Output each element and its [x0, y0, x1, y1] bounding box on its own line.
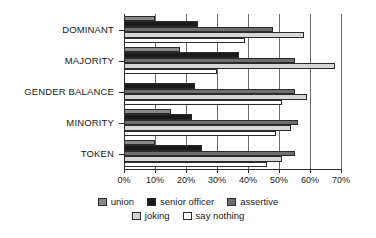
- bar-saynothing-2: [124, 100, 282, 105]
- x-tick-label-40: 40%: [239, 175, 257, 185]
- x-tick-label-30: 30%: [208, 175, 226, 185]
- x-tick-60: [310, 169, 311, 173]
- category-label-majority: MAJORITY: [65, 56, 114, 66]
- x-tick-label-0: 0%: [117, 175, 130, 185]
- x-tick-20: [186, 169, 187, 173]
- legend-item-joking[interactable]: joking: [132, 211, 170, 221]
- legend-item-assertive[interactable]: assertive: [227, 197, 278, 207]
- x-tick-label-50: 50%: [270, 175, 288, 185]
- chart-legend: unionsenior officerassertive jokingsay n…: [0, 195, 376, 223]
- bar-group: [124, 107, 341, 138]
- legend-swatch-icon: [98, 198, 107, 206]
- x-tick-label-70: 70%: [332, 175, 350, 185]
- legend-item-senior-officer[interactable]: senior officer: [147, 197, 214, 207]
- legend-label: senior officer: [160, 197, 214, 207]
- gridline-70: [341, 14, 342, 169]
- legend-swatch-icon: [227, 198, 236, 206]
- bar-saynothing-4: [124, 162, 267, 167]
- plot-area: [124, 14, 341, 169]
- bar-row: [124, 38, 341, 43]
- x-tick-label-20: 20%: [177, 175, 195, 185]
- legend-row-secondary: jokingsay nothing: [0, 209, 376, 223]
- category-tick: [119, 30, 124, 31]
- x-tick-50: [279, 169, 280, 173]
- legend-row-primary: unionsenior officerassertive: [0, 195, 376, 209]
- bar-saynothing-0: [124, 38, 245, 43]
- legend-item-say-nothing[interactable]: say nothing: [183, 211, 245, 221]
- category-label-gender-balance: GENDER BALANCE: [24, 87, 114, 97]
- legend-label: joking: [145, 211, 170, 221]
- bar-saynothing-3: [124, 131, 276, 136]
- x-tick-label-10: 10%: [146, 175, 164, 185]
- x-tick-10: [155, 169, 156, 173]
- bar-row: [124, 162, 341, 167]
- bar-group: [124, 138, 341, 169]
- category-tick: [119, 154, 124, 155]
- x-tick-0: [124, 169, 125, 173]
- bar-group: [124, 76, 341, 107]
- legend-item-union[interactable]: union: [98, 197, 134, 207]
- category-label-token: TOKEN: [81, 149, 114, 159]
- category-tick: [119, 123, 124, 124]
- legend-swatch-icon: [183, 212, 192, 220]
- legend-label: say nothing: [196, 211, 245, 221]
- legend-swatch-icon: [147, 198, 156, 206]
- y-axis-category-labels: DOMINANTMAJORITYGENDER BALANCEMINORITYTO…: [0, 14, 114, 169]
- category-label-minority: MINORITY: [66, 118, 114, 128]
- bar-row: [124, 131, 341, 136]
- x-tick-label-60: 60%: [301, 175, 319, 185]
- bar-row: [124, 69, 341, 74]
- bar-chart: DOMINANTMAJORITYGENDER BALANCEMINORITYTO…: [0, 0, 376, 238]
- bar-saynothing-1: [124, 69, 217, 74]
- x-tick-70: [341, 169, 342, 173]
- bar-group: [124, 45, 341, 76]
- bar-group: [124, 14, 341, 45]
- category-label-dominant: DOMINANT: [62, 25, 114, 35]
- x-tick-40: [248, 169, 249, 173]
- category-tick: [119, 61, 124, 62]
- x-tick-30: [217, 169, 218, 173]
- legend-label: assertive: [240, 197, 278, 207]
- legend-swatch-icon: [132, 212, 141, 220]
- category-tick: [119, 92, 124, 93]
- bar-row: [124, 100, 341, 105]
- legend-label: union: [111, 197, 134, 207]
